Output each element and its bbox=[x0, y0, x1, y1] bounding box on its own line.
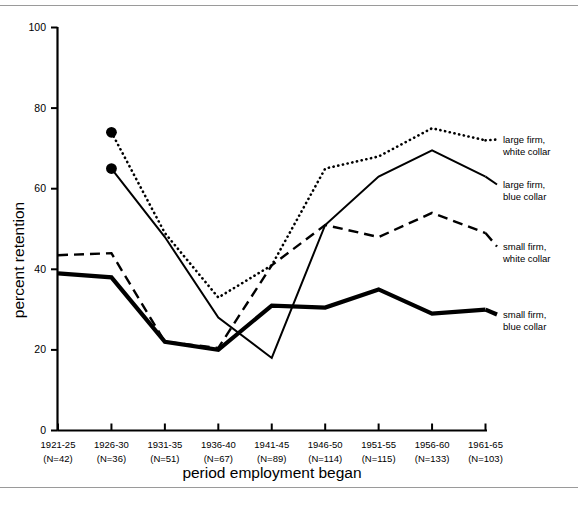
legend-connector bbox=[486, 310, 498, 315]
legend-label-line2: white collar bbox=[502, 146, 551, 157]
x-tick-label-period: 1946-50 bbox=[308, 439, 343, 450]
series-group bbox=[58, 128, 486, 358]
line-chart-svg: percent retention 0 20 40 60 80 100 1921… bbox=[0, 0, 578, 508]
legend-group: large firm,white collarlarge firm,blue c… bbox=[502, 134, 551, 332]
x-tick-label-period: 1936-40 bbox=[201, 439, 236, 450]
legend-connector-lines bbox=[486, 140, 498, 315]
x-tick-label-count: (N=103) bbox=[468, 453, 503, 464]
start-markers-group bbox=[106, 127, 117, 174]
y-axis-title: percent retention bbox=[10, 202, 27, 318]
series-start-marker bbox=[106, 127, 117, 138]
y-tick-label-100: 100 bbox=[28, 21, 46, 33]
series-line bbox=[58, 213, 486, 348]
x-tick-label-count: (N=114) bbox=[308, 453, 342, 464]
x-tick-label-count: (N=36) bbox=[97, 453, 126, 464]
y-tick-label-0: 0 bbox=[40, 424, 46, 436]
legend-connector bbox=[486, 233, 498, 246]
x-tick-label-count: (N=67) bbox=[204, 453, 233, 464]
x-tick-label-period: 1921-25 bbox=[41, 439, 76, 450]
y-tick-label-80: 80 bbox=[34, 102, 46, 114]
legend-label-line2: blue collar bbox=[503, 321, 546, 332]
legend-label-line2: white collar bbox=[502, 253, 551, 264]
y-tick-label-20: 20 bbox=[34, 343, 46, 355]
x-tick-label-period: 1956-60 bbox=[415, 439, 450, 450]
x-tick-label-period: 1931-35 bbox=[147, 439, 182, 450]
legend-label-line1: large firm, bbox=[503, 179, 545, 190]
x-tick-labels: 1921-25(N=42)1926-30(N=36)1931-35(N=51)1… bbox=[41, 439, 503, 464]
legend-connector bbox=[486, 177, 498, 185]
x-tick-label-period: 1941-45 bbox=[254, 439, 289, 450]
legend-connector bbox=[486, 140, 498, 141]
chart-figure: percent retention 0 20 40 60 80 100 1921… bbox=[0, 0, 578, 508]
x-axis-title: period employment began bbox=[182, 464, 361, 481]
x-tick-label-period: 1926-30 bbox=[94, 439, 129, 450]
legend-label-line1: small firm, bbox=[503, 309, 546, 320]
x-tick-label-count: (N=89) bbox=[257, 453, 286, 464]
bottom-rule bbox=[0, 487, 578, 488]
x-tick-label-count: (N=51) bbox=[150, 453, 179, 464]
x-tick-label-count: (N=115) bbox=[362, 453, 396, 464]
legend-label-line1: large firm, bbox=[503, 134, 545, 145]
top-rule bbox=[0, 5, 578, 6]
x-tick-label-period: 1961-65 bbox=[468, 439, 503, 450]
x-tick-label-count: (N=42) bbox=[43, 453, 72, 464]
y-tick-labels: 0 20 40 60 80 100 bbox=[28, 21, 46, 436]
legend-label-line2: blue collar bbox=[503, 191, 546, 202]
y-tick-label-40: 40 bbox=[34, 263, 46, 275]
x-tick-label-period: 1951-55 bbox=[361, 439, 396, 450]
series-line bbox=[58, 273, 486, 350]
series-line bbox=[111, 150, 485, 358]
x-tick-label-count: (N=133) bbox=[415, 453, 450, 464]
y-tick-label-60: 60 bbox=[34, 182, 46, 194]
series-start-marker bbox=[106, 163, 117, 174]
legend-label-line1: small firm, bbox=[503, 241, 546, 252]
